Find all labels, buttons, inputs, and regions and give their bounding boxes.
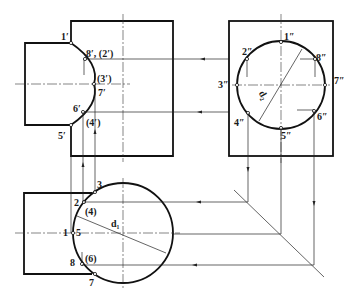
label-8-top: 8	[70, 257, 75, 268]
label-5-front: 5′	[58, 130, 66, 141]
label-7-front: 7′	[98, 87, 106, 98]
label-1-side: 1″	[284, 31, 295, 42]
top-dimension-line	[77, 216, 166, 253]
projection-drawing: 1′ 8′, (2′) (3′) 7′ 6′ (4′) 5′ 1″ 2″ 8″ …	[0, 0, 354, 304]
top-view: 3 2 (4) 1 5 (6) 8 7 d₁	[15, 178, 180, 290]
arrow-left-side-6	[197, 111, 202, 114]
label-1-front: 1′	[61, 31, 69, 42]
point-5-front	[69, 123, 72, 126]
point-2-side	[245, 57, 248, 60]
label-3-top: 3	[97, 179, 102, 190]
label-7-side: 7″	[334, 75, 345, 86]
label-6-top: (6)	[85, 253, 97, 265]
arrow-up-2	[82, 162, 85, 167]
label-4-front: (4′)	[86, 117, 100, 129]
point-7-side	[323, 83, 326, 86]
label-2-top: 2	[74, 197, 79, 208]
label-8-2-front: 8′, (2′)	[86, 48, 113, 60]
label-d1: d₁	[111, 218, 120, 229]
label-6-front: 6′	[73, 103, 81, 114]
label-2-side: 2″	[242, 46, 253, 57]
label-3-side: 3″	[218, 79, 229, 90]
point-1-top	[71, 231, 74, 234]
arrow-left-h1	[196, 201, 201, 204]
point-1-front	[69, 41, 72, 44]
point-7-top	[93, 272, 96, 275]
label-8-side: 8″	[316, 52, 327, 63]
label-6-side: 6″	[317, 111, 328, 122]
label-1-top: 1	[63, 227, 68, 238]
arrow-up-3	[94, 129, 97, 134]
front-large-block-outline	[71, 21, 173, 156]
front-view: 1′ 8′, (2′) (3′) 7′ 6′ (4′) 5′	[15, 14, 229, 162]
point-1-side	[279, 40, 282, 43]
projection-lines	[71, 58, 324, 278]
arrow-left-side-8	[200, 58, 205, 61]
label-d2: d₂	[257, 89, 271, 102]
point-3-side	[235, 83, 238, 86]
label-4-side: 4″	[234, 117, 245, 128]
arrow-down-6	[313, 201, 316, 206]
arrow-down-4	[247, 167, 250, 172]
label-3-front: (3′)	[97, 73, 111, 85]
label-4-top: (4)	[85, 206, 97, 218]
label-5-side: 5″	[281, 130, 292, 141]
arrow-left-h3	[192, 264, 197, 267]
miter-line-45	[234, 190, 324, 277]
label-5-top: 5	[76, 227, 81, 238]
label-7-top: 7	[89, 277, 94, 288]
